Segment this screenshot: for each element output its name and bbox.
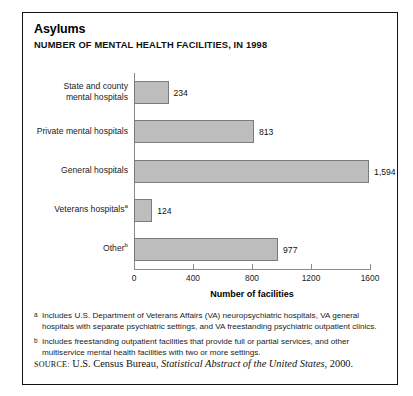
- figure-subtitle: NUMBER OF MENTAL HEALTH FACILITIES, IN 1…: [34, 40, 267, 50]
- x-tick-label: 1200: [302, 273, 321, 283]
- bar-chart-plot-area: State and countymental hospitalsPrivate …: [23, 73, 397, 305]
- source-lead: SOURCE:: [34, 360, 70, 369]
- source-line: SOURCE: U.S. Census Bureau, Statistical …: [34, 358, 390, 371]
- bar: [134, 199, 152, 222]
- x-tick: [252, 264, 253, 270]
- footnote-marker: a: [34, 310, 38, 321]
- x-tick: [370, 264, 371, 270]
- bar: [134, 81, 169, 104]
- footnote-text: Includes freestanding outpatient facilit…: [42, 337, 349, 357]
- x-tick-label: 400: [186, 273, 200, 283]
- source-after-italic: , 2000.: [325, 358, 354, 369]
- bar-value-label: 234: [174, 88, 188, 98]
- footnote: aIncludes U.S. Department of Veterans Af…: [34, 311, 388, 332]
- category-label: State and countymental hospitals: [24, 81, 128, 102]
- bar-value-label: 977: [283, 245, 297, 255]
- page-title: Asylums: [34, 22, 85, 36]
- x-tick-label: 0: [132, 273, 137, 283]
- figure-frame: Asylums NUMBER OF MENTAL HEALTH FACILITI…: [22, 12, 398, 385]
- x-tick: [193, 264, 194, 270]
- footnote-marker: b: [125, 241, 128, 248]
- bar: [134, 120, 254, 143]
- footnotes: aIncludes U.S. Department of Veterans Af…: [34, 311, 388, 363]
- bar-value-label: 124: [157, 206, 171, 216]
- bar-value-label: 1,594: [374, 167, 396, 177]
- bar: [134, 160, 369, 183]
- footnote-marker: b: [34, 336, 38, 347]
- source-before-italic: U.S. Census Bureau,: [70, 358, 162, 369]
- category-label: Private mental hospitals: [24, 126, 128, 137]
- x-axis-label: Number of facilities: [134, 289, 370, 299]
- footnote-marker: a: [125, 202, 128, 209]
- bar-value-label: 813: [259, 127, 273, 137]
- footnote-text: Includes U.S. Department of Veterans Aff…: [42, 311, 377, 331]
- category-label: General hospitals: [24, 165, 128, 176]
- x-tick: [311, 264, 312, 270]
- x-tick: [134, 264, 135, 270]
- x-tick-label: 1600: [361, 273, 380, 283]
- category-label: Otherb: [24, 243, 128, 254]
- x-tick-label: 800: [245, 273, 259, 283]
- category-label: Veterans hospitalsa: [24, 204, 128, 215]
- source-publication-title: Statistical Abstract of the United State…: [161, 358, 324, 369]
- footnote: bIncludes freestanding outpatient facili…: [34, 337, 388, 358]
- bar: [134, 238, 278, 261]
